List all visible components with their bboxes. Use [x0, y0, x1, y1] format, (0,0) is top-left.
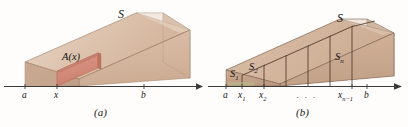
axis-tick-a-panel-a: a — [22, 91, 27, 101]
slab-label-sn-sub: n — [340, 57, 344, 65]
axis-tick-b-panel-a: b — [141, 91, 146, 101]
slab-label-s1-sub: 1 — [235, 74, 239, 82]
slab-label-s2: S2 — [249, 62, 258, 75]
slab-label-s2-sub: 2 — [254, 67, 258, 75]
solid-s-b — [226, 19, 394, 86]
panel-b: S S1 S2 Sn a x1 x2 · · · xn−1 b (b) — [204, 0, 408, 127]
axis-tick-xn1-sub: n−1 — [342, 95, 353, 102]
caption-panel-b: (b) — [296, 107, 309, 118]
slab-label-sn: Sn — [335, 52, 344, 65]
axis-tick-a-panel-b: a — [223, 91, 228, 101]
solid-label-s-b: S — [337, 12, 343, 24]
cross-section-label-ax: A(x) — [62, 52, 80, 63]
slab-label-s1: S1 — [230, 69, 239, 82]
figure-volume-by-cross-sections: S A(x) a x b (a) — [0, 0, 408, 127]
axis-tick-x1-sub: 1 — [242, 95, 245, 102]
axis-tick-x2-panel-b: x2 — [259, 91, 266, 102]
solid-label-s-a: S — [118, 8, 124, 20]
caption-panel-a: (a) — [94, 107, 107, 118]
axis-tick-x-panel-a: x — [54, 91, 58, 101]
axis-ellipsis-panel-b: · · · — [296, 93, 317, 102]
panel-a: S A(x) a x b (a) — [0, 0, 204, 127]
axis-tick-x1-panel-b: x1 — [238, 91, 245, 102]
axis-tick-xn1-panel-b: xn−1 — [338, 91, 353, 102]
axis-tick-b-panel-b: b — [364, 91, 369, 101]
solid-s-a — [25, 13, 190, 86]
axis-tick-x2-sub: 2 — [263, 95, 266, 102]
